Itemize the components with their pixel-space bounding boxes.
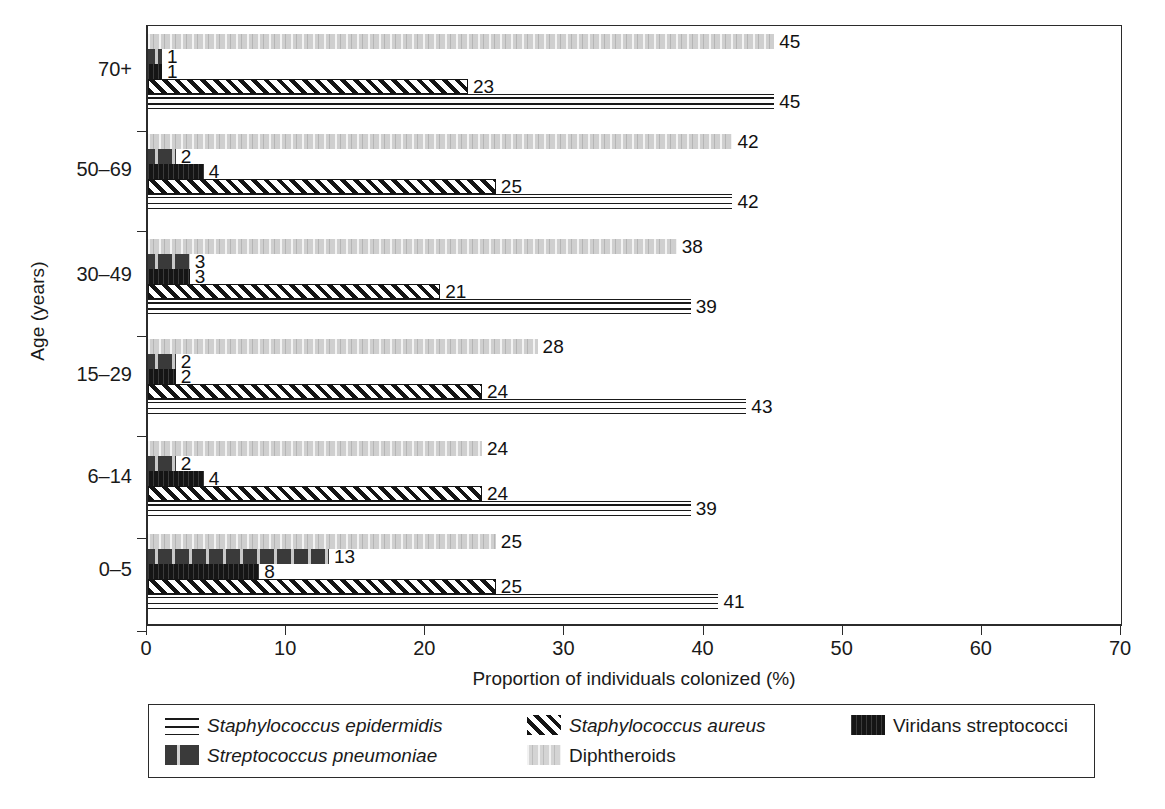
bar-s-epidermidis <box>148 399 746 414</box>
bar-group-50-69: 42242542 <box>148 134 1121 209</box>
legend-item-diphtheroids[interactable]: Diphtheroids <box>527 745 676 765</box>
bar-row-s-pneumoniae: 2 <box>148 456 1121 471</box>
bar-row-s-aureus: 21 <box>148 284 1121 299</box>
bar-row-s-aureus: 23 <box>148 79 1121 94</box>
bar-value-label: 45 <box>774 91 800 113</box>
bar-row-diphtheroids: 28 <box>148 339 1121 354</box>
bar-row-s-pneumoniae: 3 <box>148 254 1121 269</box>
bar-s-epidermidis <box>148 194 732 209</box>
bar-row-s-epidermidis: 43 <box>148 399 1121 414</box>
bar-row-diphtheroids: 38 <box>148 239 1121 254</box>
x-tick-label-50: 50 <box>802 637 882 660</box>
x-tick-mark <box>424 626 425 635</box>
horizontal-lines-icon <box>165 715 199 735</box>
x-tick-mark <box>842 626 843 635</box>
bar-s-epidermidis <box>148 501 691 516</box>
bar-s-aureus <box>148 486 482 501</box>
legend-item-staphylococcus-aureus[interactable]: Staphylococcus aureus <box>527 715 765 735</box>
x-tick-label-0: 0 <box>106 637 186 660</box>
y-tick-label-0-5: 0–5 <box>12 558 132 581</box>
dark-grey-arrows-icon <box>165 745 199 765</box>
bar-s-pneumoniae <box>148 254 190 269</box>
bar-diphtheroids <box>148 134 732 149</box>
x-tick-label-30: 30 <box>523 637 603 660</box>
x-tick-label-70: 70 <box>1080 637 1160 660</box>
bar-s-aureus <box>148 284 440 299</box>
bar-s-epidermidis <box>148 299 691 314</box>
light-grey-speckle-icon <box>527 745 561 765</box>
solid-black-icon <box>851 715 885 735</box>
legend-item-streptococcus-pneumoniae[interactable]: Streptococcus pneumoniae <box>165 745 437 765</box>
x-tick-mark <box>563 626 564 635</box>
y-tick-mark <box>137 436 146 437</box>
bar-group-0-5: 251382541 <box>148 534 1121 609</box>
bar-row-s-epidermidis: 45 <box>148 94 1121 109</box>
bar-viridans-streptococci <box>148 369 176 384</box>
y-tick-mark <box>137 231 146 232</box>
x-tick-mark <box>285 626 286 635</box>
bar-row-diphtheroids: 25 <box>148 534 1121 549</box>
bar-row-s-epidermidis: 39 <box>148 299 1121 314</box>
bar-s-aureus <box>148 384 482 399</box>
bar-group-30-49: 38332139 <box>148 239 1121 314</box>
chart-legend: Staphylococcus epidermidisStaphylococcus… <box>148 704 1095 778</box>
bar-value-label: 39 <box>691 498 717 520</box>
bar-row-s-epidermidis: 42 <box>148 194 1121 209</box>
x-tick-mark <box>146 626 147 635</box>
legend-item-viridans-streptococci[interactable]: Viridans streptococci <box>851 715 1068 735</box>
x-tick-label-60: 60 <box>941 637 1021 660</box>
bar-value-label: 41 <box>718 591 744 613</box>
bar-row-s-epidermidis: 39 <box>148 501 1121 516</box>
bar-viridans-streptococci <box>148 471 204 486</box>
bar-diphtheroids <box>148 34 774 49</box>
y-tick-label-50-69: 50–69 <box>12 158 132 181</box>
bar-value-label: 39 <box>691 296 717 318</box>
legend-label: Streptococcus pneumoniae <box>207 746 437 765</box>
bar-group-15-29: 28222443 <box>148 339 1121 414</box>
plot-area: 4511234542242542383321392822244324242439… <box>146 25 1122 626</box>
chart-figure: Age (years) 70+50–6930–4915–296–140–5 45… <box>0 0 1165 809</box>
y-tick-label-30-49: 30–49 <box>12 263 132 286</box>
y-tick-mark <box>137 631 146 632</box>
legend-label: Diphtheroids <box>569 746 676 765</box>
y-axis-tick-labels: 70+50–6930–4915–296–140–5 <box>6 0 132 809</box>
legend-label: Staphylococcus epidermidis <box>207 716 443 735</box>
bar-row-diphtheroids: 42 <box>148 134 1121 149</box>
bar-s-aureus <box>148 179 496 194</box>
bar-s-pneumoniae <box>148 49 162 64</box>
bar-s-pneumoniae <box>148 549 329 564</box>
bar-row-s-pneumoniae: 13 <box>148 549 1121 564</box>
y-tick-mark <box>137 538 146 539</box>
y-tick-label-6-14: 6–14 <box>12 465 132 488</box>
bar-viridans-streptococci <box>148 164 204 179</box>
bar-s-pneumoniae <box>148 456 176 471</box>
bar-diphtheroids <box>148 441 482 456</box>
bar-s-aureus <box>148 79 468 94</box>
bar-row-s-epidermidis: 41 <box>148 594 1121 609</box>
bar-viridans-streptococci <box>148 64 162 79</box>
bar-row-s-aureus: 24 <box>148 384 1121 399</box>
bar-row-viridans-streptococci: 4 <box>148 164 1121 179</box>
bar-s-epidermidis <box>148 594 718 609</box>
bar-diphtheroids <box>148 239 677 254</box>
bar-diphtheroids <box>148 339 538 354</box>
bar-s-pneumoniae <box>148 354 176 369</box>
x-tick-label-10: 10 <box>245 637 325 660</box>
bar-viridans-streptococci <box>148 564 259 579</box>
bar-row-s-pneumoniae: 2 <box>148 354 1121 369</box>
bar-s-epidermidis <box>148 94 774 109</box>
bar-row-viridans-streptococci: 3 <box>148 269 1121 284</box>
y-tick-label-70+: 70+ <box>12 58 132 81</box>
legend-item-staphylococcus-epidermidis[interactable]: Staphylococcus epidermidis <box>165 715 443 735</box>
x-tick-label-20: 20 <box>384 637 464 660</box>
bar-s-aureus <box>148 579 496 594</box>
bar-group-6-14: 24242439 <box>148 441 1121 516</box>
bar-row-diphtheroids: 24 <box>148 441 1121 456</box>
bar-row-s-pneumoniae: 2 <box>148 149 1121 164</box>
legend-label: Staphylococcus aureus <box>569 716 765 735</box>
bar-value-label: 42 <box>732 191 758 213</box>
bar-group-70+: 45112345 <box>148 34 1121 109</box>
bar-row-s-aureus: 25 <box>148 579 1121 594</box>
bar-s-pneumoniae <box>148 149 176 164</box>
bar-row-s-pneumoniae: 1 <box>148 49 1121 64</box>
